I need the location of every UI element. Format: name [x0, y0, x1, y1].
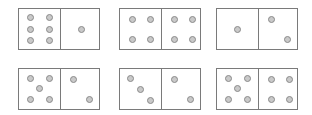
pip-icon: [147, 97, 154, 104]
pip-icon: [171, 76, 178, 83]
domino-6-1: [18, 8, 100, 50]
pip-icon: [36, 85, 43, 92]
domino-4-4: [119, 8, 201, 50]
pip-icon: [86, 96, 93, 103]
domino-half-left: [120, 69, 160, 109]
pip-icon: [189, 36, 196, 43]
domino-1-2: [216, 8, 298, 50]
pip-icon: [268, 16, 275, 23]
pip-icon: [27, 37, 34, 44]
domino-half-left: [19, 69, 59, 109]
pip-icon: [225, 96, 232, 103]
pip-icon: [171, 16, 178, 23]
domino-half-right: [60, 69, 101, 109]
pip-icon: [268, 96, 275, 103]
domino-half-left: [19, 9, 59, 49]
pip-icon: [234, 26, 241, 33]
pip-icon: [286, 96, 293, 103]
pip-icon: [46, 96, 53, 103]
domino-half-right: [161, 69, 202, 109]
pip-icon: [189, 16, 196, 23]
domino-half-right: [258, 69, 299, 109]
pip-icon: [147, 36, 154, 43]
domino-half-left: [217, 69, 257, 109]
pip-icon: [268, 76, 275, 83]
pip-icon: [137, 86, 144, 93]
domino-5-2: [18, 68, 100, 110]
domino-half-right: [258, 9, 299, 49]
pip-icon: [129, 16, 136, 23]
pip-icon: [27, 96, 34, 103]
domino-half-right: [60, 9, 101, 49]
domino-3-2: [119, 68, 201, 110]
pip-icon: [46, 14, 53, 21]
pip-icon: [234, 85, 241, 92]
pip-icon: [171, 36, 178, 43]
pip-icon: [27, 75, 34, 82]
pip-icon: [244, 96, 251, 103]
pip-icon: [286, 76, 293, 83]
pip-icon: [244, 75, 251, 82]
pip-icon: [46, 26, 53, 33]
domino-half-left: [120, 9, 160, 49]
pip-icon: [129, 36, 136, 43]
pip-icon: [147, 16, 154, 23]
domino-half-left: [217, 9, 257, 49]
pip-icon: [225, 75, 232, 82]
pip-icon: [127, 75, 134, 82]
pip-icon: [70, 76, 77, 83]
pip-icon: [78, 26, 85, 33]
domino-half-right: [161, 9, 202, 49]
pip-icon: [187, 96, 194, 103]
domino-5-4: [216, 68, 298, 110]
pip-icon: [284, 36, 291, 43]
pip-icon: [27, 14, 34, 21]
pip-icon: [46, 37, 53, 44]
pip-icon: [46, 75, 53, 82]
pip-icon: [27, 26, 34, 33]
